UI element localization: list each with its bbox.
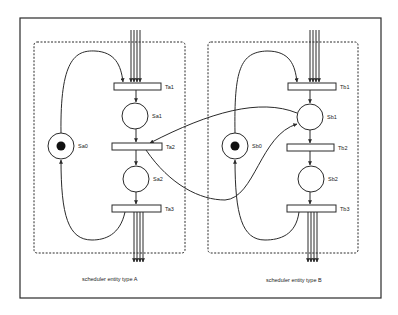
arc-ta2-sb1 <box>146 124 297 200</box>
place-sa2 <box>123 166 149 192</box>
token-icon <box>231 142 240 151</box>
place-label: Sb0 <box>252 143 262 149</box>
outer-frame <box>20 18 381 298</box>
place-label: Sa1 <box>152 113 162 119</box>
place-sb2 <box>298 166 324 192</box>
caption-entity-a: scheduler entity type A <box>82 276 138 282</box>
petri-net-diagram: Ta1Ta2Ta3Sa0Sa1Sa2Tb1Tb2Tb3Sb0Sb1Sb2 sch… <box>0 0 398 315</box>
tb3-output-arcs <box>308 212 317 262</box>
place-label: Sb1 <box>327 114 337 120</box>
transition-label: Ta2 <box>166 144 175 150</box>
transition-label: Tb3 <box>340 206 349 212</box>
arc-sb0-tb1 <box>235 51 297 133</box>
ta1-input-arcs <box>131 30 140 82</box>
tb1-input-arcs <box>310 30 319 82</box>
ta3-output-arcs <box>134 212 143 262</box>
transition-label: Tb1 <box>340 84 349 90</box>
transition-tb2 <box>287 144 334 151</box>
transition-ta3 <box>112 205 161 212</box>
token-icon <box>57 142 66 151</box>
caption-entity-b: scheduler entity type B <box>266 277 322 283</box>
arc-tb3-sb0 <box>235 160 299 240</box>
place-label: Sa0 <box>78 143 88 149</box>
transition-ta2 <box>112 143 162 150</box>
transition-label: Ta3 <box>165 206 174 212</box>
arc-sb1-ta2 <box>150 107 297 143</box>
transition-tb3 <box>287 205 336 212</box>
place-label: Sb2 <box>328 176 338 182</box>
place-sa1 <box>122 103 148 129</box>
place-label: Sa2 <box>153 176 163 182</box>
transition-ta1 <box>114 83 161 90</box>
arc-ta3-sa0 <box>61 160 125 240</box>
place-sb1 <box>297 104 323 130</box>
transition-tb1 <box>288 83 336 90</box>
transition-label: Ta1 <box>165 84 174 90</box>
arc-sa0-ta1 <box>61 51 123 133</box>
transition-label: Tb2 <box>338 145 347 151</box>
